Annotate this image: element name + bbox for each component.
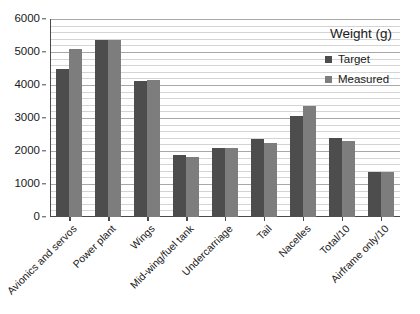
legend-entry: Target [313, 54, 409, 66]
x-tick-mark [264, 217, 265, 221]
y-tick-label: 0 [34, 211, 40, 223]
y-tick-mark [42, 18, 46, 19]
gridline-minor [51, 125, 400, 126]
y-tick-mark [42, 117, 46, 118]
y-tick-label: 5000 [14, 46, 40, 58]
gridline-minor [51, 158, 400, 159]
gridline-minor [51, 131, 400, 132]
x-tick-mark [147, 217, 148, 221]
gridline-minor [51, 204, 400, 205]
x-tick-mark [381, 217, 382, 221]
gridline-major [51, 19, 400, 20]
gridline-minor [51, 197, 400, 198]
gridline-minor [51, 171, 400, 172]
gridline-minor [51, 177, 400, 178]
gridline-major [51, 151, 400, 152]
gridline-major [51, 118, 400, 119]
gridline-minor [51, 98, 400, 99]
x-tick-mark [186, 217, 187, 221]
legend-swatch-icon [325, 56, 332, 63]
y-tick-label: 2000 [14, 145, 40, 157]
x-tick-mark [303, 217, 304, 221]
legend-title: Weight (g) [313, 27, 409, 41]
y-tick-label: 1000 [14, 178, 40, 190]
legend-swatch-icon [325, 76, 332, 83]
y-tick-mark [42, 51, 46, 52]
x-tick-label: Avionics and servos [6, 223, 79, 296]
y-axis: 0100020003000400050006000 [0, 19, 46, 217]
legend-entry: Measured [313, 74, 409, 86]
y-tick-mark [42, 84, 46, 85]
legend-label: Target [338, 54, 370, 66]
gridline-minor [51, 138, 400, 139]
bar-chart: 0100020003000400050006000 Avionics and s… [0, 0, 420, 314]
legend: Weight (g) TargetMeasured [313, 27, 409, 95]
y-tick-label: 4000 [14, 79, 40, 91]
gridline-minor [51, 191, 400, 192]
x-tick-label: Tail [255, 223, 274, 242]
x-axis: Avionics and servosPower plantWingsMid-w… [50, 217, 420, 314]
x-tick-label: Nacelles [276, 223, 312, 259]
y-tick-mark [42, 150, 46, 151]
gridline-minor [51, 164, 400, 165]
x-tick-mark [225, 217, 226, 221]
gridline-minor [51, 210, 400, 211]
x-tick-mark [342, 217, 343, 221]
legend-label: Measured [338, 74, 389, 86]
x-tick-mark [108, 217, 109, 221]
gridline-major [51, 184, 400, 185]
x-tick-mark [69, 217, 70, 221]
x-tick-label: Wings [129, 223, 157, 251]
gridline-minor [51, 144, 400, 145]
y-tick-mark [42, 183, 46, 184]
x-tick-label: Total/10 [318, 223, 351, 256]
y-tick-label: 3000 [14, 112, 40, 124]
y-tick-mark [42, 216, 46, 217]
legend-entries: TargetMeasured [313, 54, 409, 86]
y-tick-label: 6000 [14, 13, 40, 25]
gridline-minor [51, 105, 400, 106]
gridline-minor [51, 111, 400, 112]
